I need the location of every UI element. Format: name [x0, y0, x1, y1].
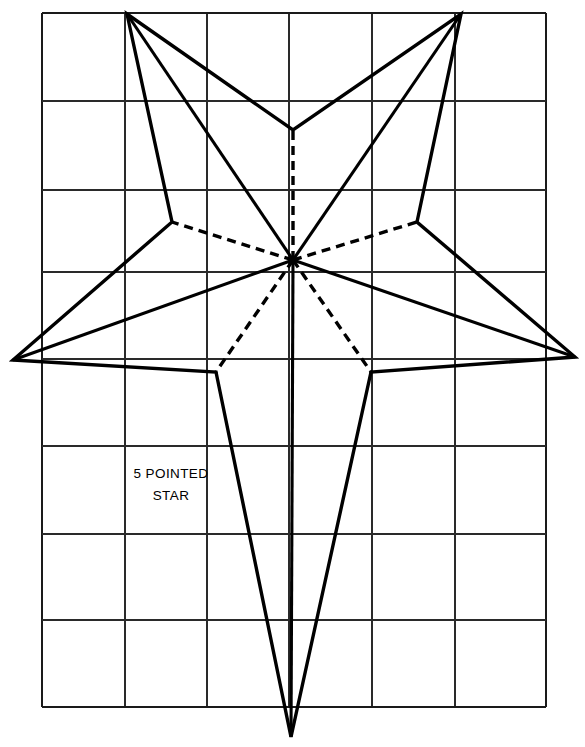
fold-center-to-bottom-point: [291, 260, 293, 737]
five-pointed-star-diagram: 5 POINTED STAR: [0, 0, 585, 747]
caption-line-1: 5 POINTED: [134, 466, 209, 481]
caption-line-2: STAR: [153, 488, 190, 503]
figure-root: 5 POINTED STAR: [0, 0, 585, 747]
